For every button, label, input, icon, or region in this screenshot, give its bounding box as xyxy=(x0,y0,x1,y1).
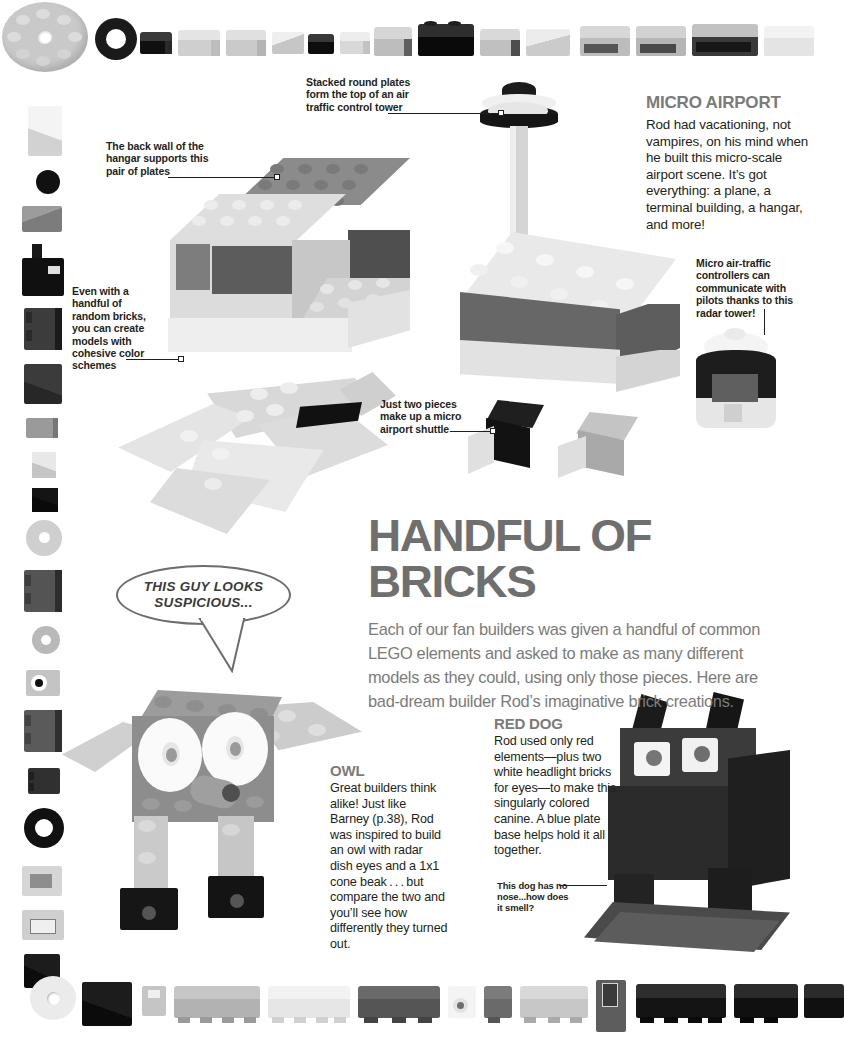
dark-gray-brick-piece xyxy=(358,986,440,1018)
owl-section: OWL Great builders think alike! Just lik… xyxy=(330,762,448,953)
brick-piece xyxy=(636,26,686,56)
gray-brick-piece xyxy=(24,710,62,752)
micro-airport-heading: MICRO AIRPORT xyxy=(646,93,811,113)
callout-radar-tower-text: Micro air-traffic controllers can commun… xyxy=(696,257,793,319)
wheel-hub-piece xyxy=(32,626,60,654)
radar-tower-model xyxy=(690,332,784,458)
gray-brick-piece xyxy=(174,986,260,1018)
red-dog-heading: RED DOG xyxy=(494,715,624,732)
black-slope-piece xyxy=(32,488,58,512)
speech-bubble-text: THIS GUY LOOKS SUSPICIOUS... xyxy=(116,565,291,625)
callout-shuttle: Just two pieces make up a micro airport … xyxy=(380,398,462,435)
light-brick-piece xyxy=(22,910,64,940)
slope-piece xyxy=(526,29,570,56)
page-title: HANDFUL OF BRICKS xyxy=(368,513,776,605)
callout-hangar-wall-text: The back wall of the hangar supports thi… xyxy=(106,140,208,177)
owl-heading: OWL xyxy=(330,762,448,779)
lego-parts-bottom-strip xyxy=(0,968,815,1038)
dark-brick-piece xyxy=(692,24,758,56)
headlight-brick-piece xyxy=(26,670,60,696)
brick-piece xyxy=(226,30,266,56)
black-brick-piece xyxy=(804,984,844,1018)
dark-brick-piece xyxy=(28,768,60,794)
callout-color-schemes: Even with a handful of random bricks, yo… xyxy=(72,285,160,372)
black-brick-piece xyxy=(418,24,474,56)
dark-wedge-piece xyxy=(24,364,62,404)
slope-piece xyxy=(272,32,304,54)
lego-parts-top-strip xyxy=(0,0,815,78)
headline-section: HANDFUL OF BRICKS Each of our fan builde… xyxy=(368,513,768,713)
brick-piece xyxy=(480,29,520,56)
gray-brick-piece xyxy=(26,418,58,438)
micro-airport-section: MICRO AIRPORT Rod had vacationing, not v… xyxy=(646,93,811,233)
slope-piece xyxy=(22,206,62,232)
callout-tower-top-text: Stacked round plates form the top of an … xyxy=(306,76,410,113)
gray-brick-piece xyxy=(24,570,62,612)
red-dog-body: Rod used only red elements—plus two whit… xyxy=(494,734,624,859)
brick-piece xyxy=(764,26,814,56)
wedge-piece xyxy=(28,106,62,156)
red-dog-section: RED DOG Rod used only red elements—plus … xyxy=(494,715,624,859)
terminal-building-model xyxy=(444,232,694,412)
control-tower-model xyxy=(480,82,560,257)
upright-brick-piece xyxy=(596,980,626,1032)
callout-hangar-wall: The back wall of the hangar supports thi… xyxy=(106,140,210,177)
black-assembly-piece xyxy=(22,244,64,296)
callout-dog-nose-text: This dog has no nose...how does it smell… xyxy=(497,880,568,913)
speech-bubble: THIS GUY LOOKS SUSPICIOUS... xyxy=(116,565,291,625)
brick-piece xyxy=(178,30,220,56)
owl-body: Great builders think alike! Just like Ba… xyxy=(330,781,448,953)
small-bracket-piece xyxy=(142,986,166,1016)
tire-piece xyxy=(95,18,137,60)
tire-piece xyxy=(24,808,64,848)
gray-brick-piece xyxy=(484,986,512,1018)
brick-piece xyxy=(374,27,412,56)
light-gray-brick-piece xyxy=(520,986,588,1018)
black-brick-piece xyxy=(636,984,726,1018)
micro-airport-body: Rod had vacationing, not vampires, on hi… xyxy=(646,117,811,233)
black-wedge-piece xyxy=(82,982,132,1026)
light-brick-piece xyxy=(22,866,62,896)
dark-brick-piece xyxy=(24,308,62,350)
callout-tower-top: Stacked round plates form the top of an … xyxy=(306,76,414,113)
white-brick-piece xyxy=(268,986,350,1018)
round-black-piece xyxy=(36,170,60,194)
black-brick-piece xyxy=(734,984,798,1018)
owl-model xyxy=(62,684,362,934)
headline-intro: Each of our fan builders was given a han… xyxy=(368,617,768,713)
round-plate-piece xyxy=(30,976,76,1020)
small-wedge-piece xyxy=(32,452,56,478)
shuttle-piece-gray xyxy=(558,412,640,478)
shuttle-piece-black xyxy=(468,400,544,474)
round-plate-piece xyxy=(2,2,88,72)
brick-piece xyxy=(580,26,630,56)
callout-shuttle-text: Just two pieces make up a micro airport … xyxy=(380,398,461,435)
round-plate-piece xyxy=(26,520,62,556)
brick-piece xyxy=(308,34,334,54)
airplane-model xyxy=(108,348,398,548)
brick-piece xyxy=(340,32,370,54)
headlight-brick-piece xyxy=(448,986,476,1018)
brick-piece xyxy=(140,32,172,54)
callout-radar-tower: Micro air-traffic controllers can commun… xyxy=(696,257,796,319)
callout-dog-nose: This dog has no nose...how does it smell… xyxy=(497,880,575,914)
